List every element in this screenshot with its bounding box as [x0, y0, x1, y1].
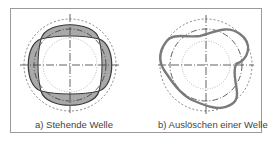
caption-b: b) Auslöschen einer Welle — [158, 119, 268, 130]
panel-a-standing-wave — [20, 14, 120, 114]
panel-b-wave-cancellation — [158, 15, 254, 114]
caption-a: a) Stehende Welle — [35, 119, 113, 130]
